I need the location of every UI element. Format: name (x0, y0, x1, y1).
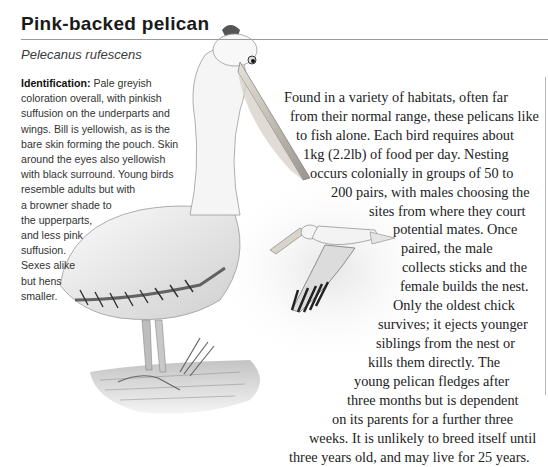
description-line: kills them directly. The (368, 353, 500, 372)
description-line: three years old, and may live for 25 yea… (289, 448, 530, 467)
page-title: Pink-backed pelican (21, 13, 209, 35)
identification-line: the upperparts, (21, 213, 171, 228)
identification-line: resemble adults but with (21, 182, 171, 197)
description-line: Found in a variety of habitats, often fa… (284, 88, 508, 107)
description-line: young pelican fledges after (354, 372, 509, 391)
description-line: potential mates. Once (393, 220, 517, 239)
identification-line: but hens (21, 274, 171, 289)
identification-line: bare skin forming the pouch. Skin (21, 137, 171, 152)
identification-line: smaller. (21, 289, 171, 304)
description-line: 200 pairs, with males choosing the (331, 183, 530, 202)
identification-line: around the eyes also yellowish (21, 152, 171, 167)
identification-line: a browner shade to (21, 198, 171, 213)
identification-line: Sexes alike (21, 258, 171, 273)
identification-line: suffusion. (21, 243, 171, 258)
identification-line: coloration overall, with pinkish (21, 91, 171, 106)
description-line: 1kg (2.2lb) of food per day. Nesting (303, 145, 509, 164)
description-line: survives; it ejects younger (378, 315, 528, 334)
identification-text: Pale greyish (90, 77, 151, 89)
identification-line: Identification: Pale greyish (21, 76, 171, 91)
description-line: weeks. It is unlikely to breed itself un… (309, 429, 536, 448)
identification-label: Identification: (21, 77, 90, 89)
identification-block: Identification: Pale greyish coloration … (21, 76, 171, 304)
description-line: female builds the nest. (400, 277, 529, 296)
description-line: on its parents for a further three (332, 410, 513, 429)
description-line: sites from where they court (369, 202, 525, 221)
margin-rule (545, 77, 546, 395)
description-line: from their normal range, these pelicans … (290, 107, 539, 126)
scientific-name: Pelecanus rufescens (21, 47, 142, 62)
description-line: siblings from the nest or (376, 334, 515, 353)
identification-line: wings. Bill is yellowish, as is the (21, 122, 171, 137)
identification-line: and less pink (21, 228, 171, 243)
identification-line: suffusion on the underparts and (21, 106, 171, 121)
title-rule (21, 39, 548, 40)
description-line: collects sticks and the (402, 258, 527, 277)
description-line: three months but is dependent (347, 391, 519, 410)
description-line: to fish alone. Each bird requires about (296, 126, 514, 145)
identification-line: with black surround. Young birds (21, 167, 171, 182)
description-line: Only the oldest chick (393, 296, 515, 315)
flying-pelican (270, 225, 395, 312)
description-line: paired, the male (401, 239, 493, 258)
nest-mound (90, 338, 260, 414)
description-line: occurs colonially in groups of 50 to (310, 164, 513, 183)
